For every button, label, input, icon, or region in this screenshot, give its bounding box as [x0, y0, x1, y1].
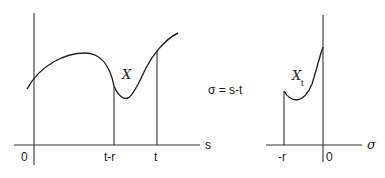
right-panel: X t -r 0 σ — [266, 15, 377, 164]
right-origin-label: 0 — [326, 150, 333, 164]
xt-curve — [284, 47, 323, 100]
xt-curve-subscript: t — [301, 78, 304, 88]
s-axis-label: s — [205, 138, 211, 152]
tick-label-t-minus-r: t-r — [104, 150, 115, 164]
x-curve-label: X — [121, 67, 132, 82]
sigma-axis-label: σ — [367, 137, 377, 152]
tick-label-t: t — [154, 150, 158, 164]
minus-r-label: -r — [278, 150, 286, 164]
left-panel: X 0 t-r t — [14, 13, 200, 165]
left-origin-label: 0 — [21, 150, 28, 164]
transform-label: σ = s-t — [208, 83, 243, 97]
diagram: X 0 t-r t s σ = s-t X t -r 0 σ — [0, 0, 385, 178]
x-curve — [27, 33, 178, 99]
